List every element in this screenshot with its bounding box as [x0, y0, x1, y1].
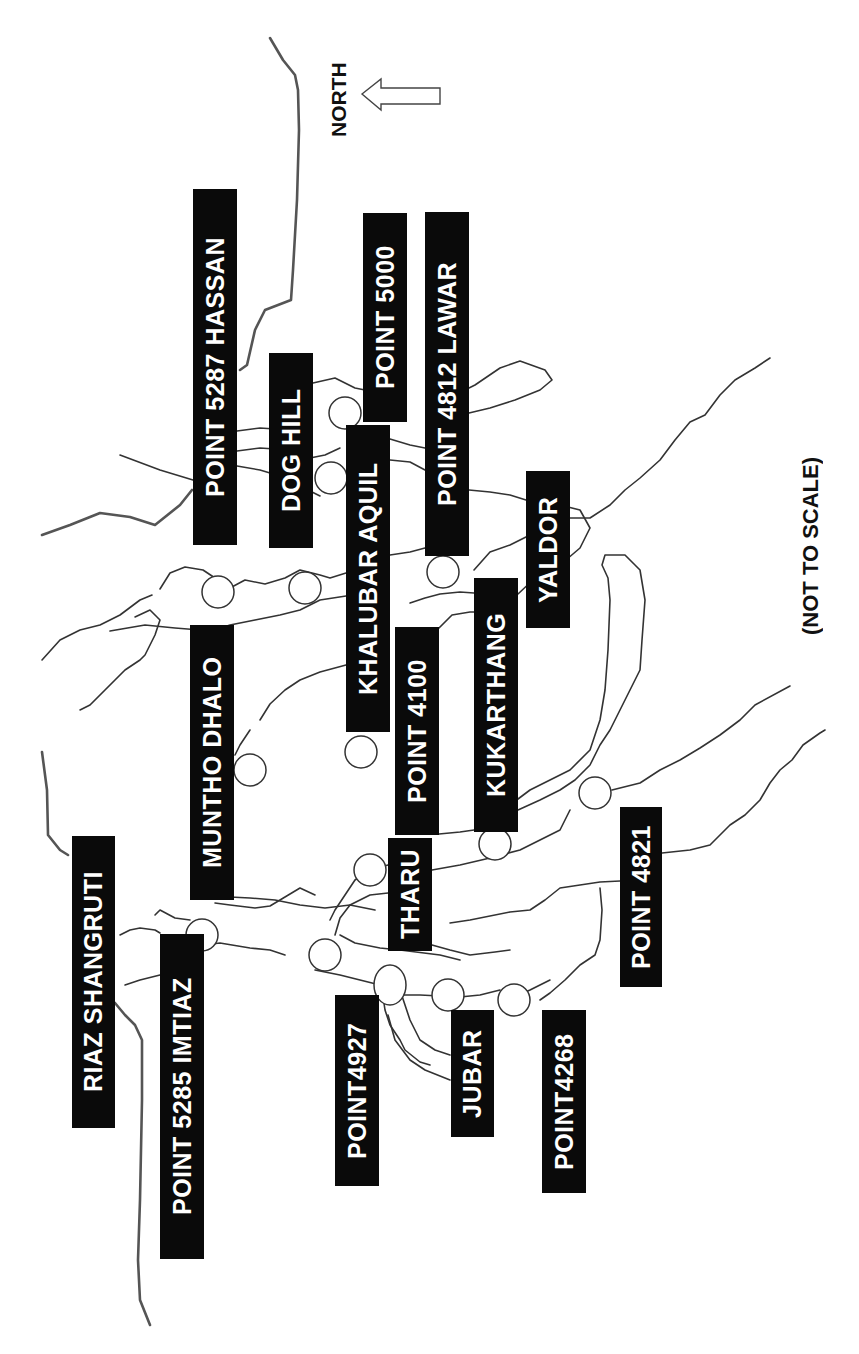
label-jubar: JUBAR [451, 1010, 494, 1137]
label-point-5000: POINT 5000 [363, 213, 407, 422]
label-point-5285-imtiaz: POINT 5285 IMTIAZ [160, 934, 204, 1259]
label-muntho-dhalo: MUNTHO DHALO [190, 625, 234, 900]
label-point4927: POINT4927 [335, 995, 379, 1186]
label-point4268: POINT4268 [542, 1010, 586, 1193]
label-riaz-shangruti: RIAZ SHANGRUTI [72, 836, 115, 1128]
label-kukarthang: KUKARTHANG [474, 578, 518, 832]
label-dog-hill: DOG HILL [269, 353, 313, 548]
north-label: NORTH [326, 42, 352, 158]
label-khalubar-aquil: KHALUBAR AQUIL [346, 425, 390, 732]
label-point-4821: POINT 4821 [620, 807, 662, 987]
label-point-4100: POINT 4100 [395, 627, 439, 835]
label-yaldor: YALDOR [526, 471, 570, 628]
north-arrow-icon [362, 79, 440, 110]
label-point-5287-hassan: POINT 5287 HASSAN [193, 189, 237, 545]
label-tharu: THARU [388, 838, 432, 951]
not-to-scale-note: (NOT TO SCALE) [795, 413, 827, 679]
label-point-4812-lawar: POINT 4812 LAWAR [425, 212, 469, 556]
